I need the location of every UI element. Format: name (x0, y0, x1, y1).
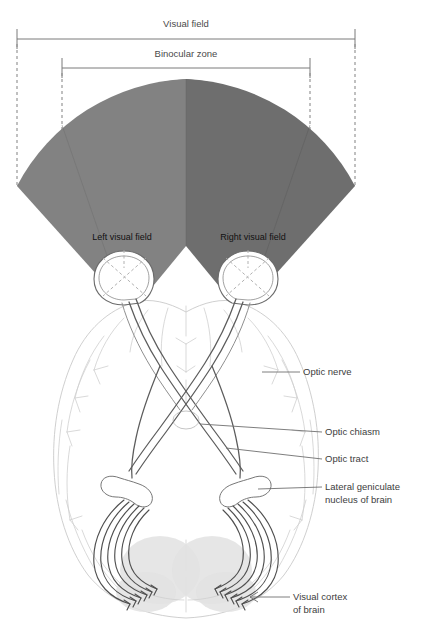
binocular-zone-label: Binocular zone (155, 48, 218, 59)
callout-lgn-label-line2: nucleus of brain (325, 494, 392, 505)
visual-field-dimension: Visual field (17, 18, 355, 49)
left-eye (94, 250, 154, 305)
callout-visual-cortex-label-line2: of brain (293, 604, 325, 615)
callout-lgn-label-line1: Lateral geniculate (325, 481, 400, 492)
brain (54, 300, 319, 618)
right-eye (218, 250, 278, 305)
visual-pathway-figure: Visual field Binocular zone (0, 0, 431, 630)
visual-cortex-right-shading-2 (196, 572, 256, 612)
diagram-canvas: Visual field Binocular zone (0, 0, 431, 630)
right-visual-field-label: Right visual field (220, 232, 286, 242)
callout-visual-cortex-label-line1: Visual cortex (293, 591, 347, 602)
callout-optic-tract-label: Optic tract (325, 453, 369, 464)
visual-cortex-left-shading-2 (116, 572, 176, 612)
visual-field-label: Visual field (163, 18, 209, 29)
binocular-zone-dimension: Binocular zone (62, 48, 310, 78)
callout-optic-nerve-label: Optic nerve (303, 366, 352, 377)
left-visual-field-label: Left visual field (92, 232, 152, 242)
callout-optic-chiasm-label: Optic chiasm (325, 426, 380, 437)
